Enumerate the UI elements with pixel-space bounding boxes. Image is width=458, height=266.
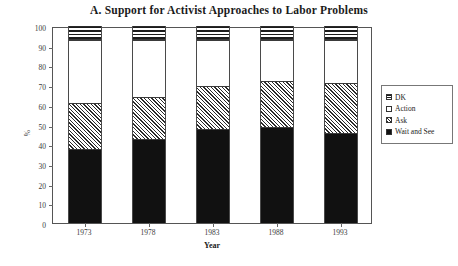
y-axis-label: % xyxy=(23,130,32,136)
chart-container: A. Support for Activist Approaches to La… xyxy=(0,0,458,266)
y-tick-mark xyxy=(49,166,53,167)
x-tick-mark xyxy=(149,223,150,227)
bar-segment-ask xyxy=(325,83,357,134)
y-tick-mark xyxy=(49,107,53,108)
bar-1993[interactable] xyxy=(324,26,358,223)
y-tick-mark xyxy=(49,48,53,49)
legend-item-wait-and-see[interactable]: Wait and See xyxy=(386,127,449,136)
legend-label: Wait and See xyxy=(395,127,434,136)
y-tick-label-100: 100 xyxy=(35,24,53,33)
bar-segment-dk xyxy=(69,26,101,40)
bar-segment-action xyxy=(133,40,165,97)
bar-segment-ask xyxy=(69,103,101,150)
bar-1983[interactable] xyxy=(196,26,230,223)
bar-segment-dk xyxy=(261,26,293,40)
bar-segment-action xyxy=(69,40,101,103)
bar-segment-ask xyxy=(261,81,293,128)
x-tick-mark xyxy=(213,223,214,227)
legend-swatch-action-icon xyxy=(386,106,392,112)
legend-swatch-wait-and-see-icon xyxy=(386,129,392,135)
y-tick-mark xyxy=(49,146,53,147)
bar-1988[interactable] xyxy=(260,26,294,223)
bar-segment-wait-and-see xyxy=(325,134,357,223)
legend-item-action[interactable]: Action xyxy=(386,104,449,113)
bar-segment-wait-and-see xyxy=(261,128,293,223)
bar-1978[interactable] xyxy=(132,26,166,223)
x-tick-mark xyxy=(85,223,86,227)
y-tick-mark xyxy=(49,127,53,128)
plot-area: 0102030405060708090100 xyxy=(52,27,372,224)
bar-segment-ask xyxy=(133,97,165,140)
legend-item-ask[interactable]: Ask xyxy=(386,116,449,125)
legend-swatch-dk-icon xyxy=(386,94,392,100)
chart-title: A. Support for Activist Approaches to La… xyxy=(0,4,458,16)
bar-segment-wait-and-see xyxy=(133,140,165,223)
bar-segment-dk xyxy=(133,26,165,40)
x-tick-mark xyxy=(341,223,342,227)
legend-swatch-ask-icon xyxy=(386,117,392,123)
bar-segment-wait-and-see xyxy=(69,150,101,223)
y-tick-mark xyxy=(49,205,53,206)
legend-label: Action xyxy=(395,104,415,113)
bar-segment-dk xyxy=(197,26,229,40)
legend-label: DK xyxy=(395,93,406,102)
x-tick-label-1983: 1983 xyxy=(205,228,220,237)
bar-segment-wait-and-see xyxy=(197,130,229,223)
y-tick-label-0: 0 xyxy=(42,221,53,230)
y-tick-mark xyxy=(49,87,53,88)
x-axis-title: Year xyxy=(52,241,372,250)
y-tick-mark xyxy=(49,186,53,187)
x-tick-label-1973: 1973 xyxy=(77,228,92,237)
legend: DKActionAskWait and See xyxy=(381,85,453,144)
x-tick-label-1978: 1978 xyxy=(141,228,156,237)
bar-segment-action xyxy=(325,40,357,83)
bar-segment-action xyxy=(261,40,293,81)
bar-1973[interactable] xyxy=(68,26,102,223)
bar-segment-dk xyxy=(325,26,357,40)
plot-right-edge xyxy=(371,28,372,223)
bar-segment-ask xyxy=(197,86,229,130)
legend-label: Ask xyxy=(395,116,407,125)
x-tick-mark xyxy=(277,223,278,227)
x-tick-label-1988: 1988 xyxy=(269,228,284,237)
bar-segment-action xyxy=(197,40,229,86)
y-tick-mark xyxy=(49,67,53,68)
legend-item-dk[interactable]: DK xyxy=(386,93,449,102)
x-tick-label-1993: 1993 xyxy=(333,228,348,237)
